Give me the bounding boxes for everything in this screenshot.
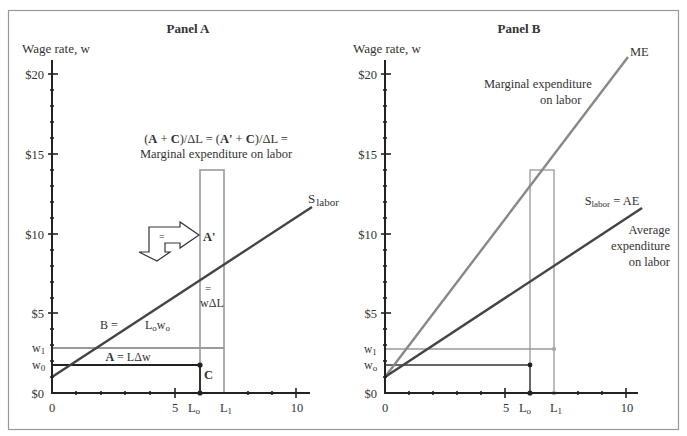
panel-b-me-curve [385, 57, 628, 377]
panel-b-supply-curve [385, 208, 642, 377]
panel-b-ae-desc-line2: expenditure [611, 239, 670, 253]
panel-b-w1-label: w1 [364, 343, 377, 357]
panel-a-area-A: A = LΔw [105, 350, 150, 364]
panel-a-area-C-eq: = [205, 282, 211, 294]
panel-b-supply-label: Slabor = AE [585, 194, 640, 209]
panel-b-w0-label: wo [364, 358, 378, 373]
panel-b-ytick-0: $0 [365, 387, 378, 401]
panel-b-y-axis-label: Wage rate, w [353, 41, 422, 56]
panel-b-xtick-10: 10 [621, 401, 634, 415]
panel-b-w0-point [528, 363, 533, 368]
panel-a-formula-line2: Marginal expenditure on labor [140, 147, 293, 161]
panel-a-xtick-0: 0 [49, 401, 55, 415]
panel-b-ae-desc-line1: Average [629, 223, 671, 237]
panel-a-formula-line1: (A + C)/ΔL = (A' + C)/ΔL = [144, 132, 288, 146]
panel-b-ytick-20: $20 [358, 68, 377, 82]
panel-a-y-axis-label: Wage rate, w [22, 41, 91, 56]
panel-b-xtick-5: 5 [503, 401, 509, 415]
panel-a-arrow-equals: = [159, 231, 165, 242]
panel-a-area-Aprime: A' [203, 230, 216, 244]
panel-a-area-B-formula: Lowo [145, 318, 171, 333]
panel-b-rectangle [530, 170, 554, 393]
panel-a-L1-label: L1 [220, 401, 232, 416]
panel-a-area-B: B = [100, 318, 118, 332]
panel-a-area-C: C [204, 368, 213, 382]
panel-a-ytick-5: $5 [32, 307, 45, 321]
panel-a-me-rectangle [200, 170, 224, 393]
panel-a-w1-label: w1 [32, 341, 45, 356]
panel-a-L0-label: Lo [188, 401, 201, 416]
panel-a-ytick-15: $15 [25, 148, 44, 162]
panel-b-xtick-0: 0 [382, 401, 388, 415]
panel-b-L0-label: Lo [519, 401, 532, 416]
panel-a-w0-point [197, 362, 202, 367]
panel-a-supply-label: Slabor [308, 191, 339, 208]
figure-frame [9, 11, 679, 430]
panel-b-ytick-5: $5 [365, 307, 378, 321]
panel-b-me-desc-line1: Marginal expenditure [484, 77, 592, 91]
panel-a-title: Panel A [167, 21, 211, 36]
panel-b-ytick-10: $10 [358, 228, 377, 242]
panel-b-title: Panel B [498, 21, 541, 36]
panel-a: Panel A Wage rate, w $20 [22, 21, 339, 416]
panel-a-area-C-formula: wΔL [200, 296, 224, 310]
panel-a-xtick-5: 5 [172, 401, 178, 415]
panel-b-me-desc-line2: on labor [540, 93, 582, 107]
panel-a-ytick-20: $20 [25, 68, 44, 82]
panel-a-ytick-0: $0 [32, 387, 45, 401]
panel-b-ae-desc-line3: on labor [629, 255, 671, 269]
panel-a-equals-arrow-icon [139, 222, 199, 261]
diagram-canvas: Panel A Wage rate, w $20 [0, 0, 687, 436]
panel-a-ytick-10: $10 [25, 228, 44, 242]
panel-b-w1-point [552, 347, 556, 351]
panel-b: Panel B Wage rate, w $20 [353, 21, 671, 416]
panel-a-w0-label: w0 [32, 358, 46, 373]
panel-b-me-label: ME [630, 45, 649, 59]
panel-b-ytick-15: $15 [358, 148, 377, 162]
panel-a-xtick-10: 10 [291, 401, 304, 415]
panel-b-L1-label: L1 [550, 401, 562, 416]
